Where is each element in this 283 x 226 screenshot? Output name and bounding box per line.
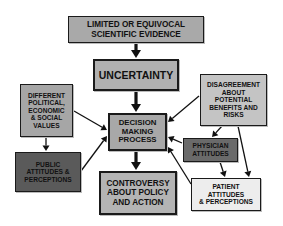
node-disagreement: DISAGREEMENT ABOUT POTENTIAL BENEFITS AN… (200, 74, 267, 126)
node-limited-evidence: LIMITED OR EQUIVOCAL SCIENTIFIC EVIDENCE (68, 16, 204, 43)
arrowhead-icon (168, 136, 175, 142)
arrow-disagreement-to-patient (238, 126, 251, 177)
node-label: PATIENT ATTITUDES & PERCEPTIONS (199, 183, 253, 206)
node-label: PUBLIC ATTITUDES & PERCEPTIONS (24, 161, 71, 184)
node-label: DECISION MAKING PROCESS (118, 119, 156, 146)
node-label: DISAGREEMENT ABOUT POTENTIAL BENEFITS AN… (207, 81, 260, 119)
arrow-uncertainty-to-decision (131, 91, 141, 112)
arrow-values-to-decision (74, 111, 107, 130)
diagram-canvas: LIMITED OR EQUIVOCAL SCIENTIFIC EVIDENCE… (0, 0, 283, 226)
arrow-physician-to-patient (220, 162, 227, 177)
arrowhead-icon (244, 171, 251, 177)
node-uncertainty: UNCERTAINTY (93, 59, 179, 91)
node-controversy: CONTROVERSY ABOUT POLICY AND ACTION (99, 171, 177, 215)
arrowhead-icon (168, 116, 175, 122)
arrowhead-icon (131, 50, 141, 58)
arrowhead-icon (101, 136, 107, 143)
arrow-values-to-public (43, 137, 50, 151)
arrow-disagreement-to-decision (168, 96, 199, 122)
node-physician-attitudes: PHYSICIAN ATTITUDES (183, 138, 238, 162)
node-label: LIMITED OR EQUIVOCAL SCIENTIFIC EVIDENCE (87, 20, 185, 39)
arrow-evidence-to-uncertainty (131, 43, 141, 58)
arrow-physician-to-decision (168, 136, 182, 143)
arrowhead-icon (212, 131, 218, 137)
node-decision-making-process: DECISION MAKING PROCESS (108, 113, 167, 151)
arrowhead-icon (100, 124, 107, 130)
arrowhead-icon (43, 145, 50, 151)
node-different-values: DIFFERENT POLITICAL, ECONOMIC & SOCIAL V… (20, 84, 73, 137)
node-label: CONTROVERSY ABOUT POLICY AND ACTION (106, 179, 169, 207)
arrowhead-icon (131, 162, 141, 170)
arrowhead-icon (168, 147, 174, 154)
arrow-disagreement-to-physician (212, 126, 222, 137)
arrowhead-icon (131, 104, 141, 112)
node-patient-attitudes: PATIENT ATTITUDES & PERCEPTIONS (191, 178, 261, 211)
arrow-decision-to-controversy (131, 151, 141, 170)
node-label: UNCERTAINTY (99, 69, 173, 81)
node-public-attitudes: PUBLIC ATTITUDES & PERCEPTIONS (15, 152, 81, 192)
arrowhead-icon (220, 171, 227, 177)
node-label: PHYSICIAN ATTITUDES (192, 142, 229, 157)
arrow-public-to-decision (81, 136, 107, 171)
node-label: DIFFERENT POLITICAL, ECONOMIC & SOCIAL V… (28, 92, 65, 130)
